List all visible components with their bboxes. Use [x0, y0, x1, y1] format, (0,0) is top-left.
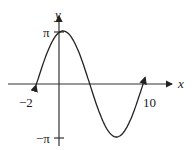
neg-pi-label: −π [36, 132, 50, 145]
x-axis-label: x [178, 77, 184, 90]
pi-label: π [43, 26, 50, 39]
graph [0, 0, 192, 150]
neg-two-label: −2 [19, 96, 33, 109]
ten-label: 10 [143, 96, 156, 109]
y-axis-label: y [55, 8, 61, 21]
